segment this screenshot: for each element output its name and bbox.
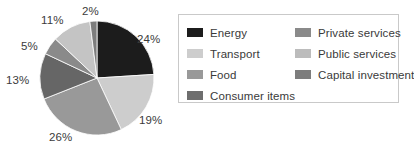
legend-item[interactable]: Private services <box>295 22 399 43</box>
legend-color-swatch <box>295 28 311 37</box>
legend-item-label: Private services <box>318 27 401 39</box>
pie-slice-value-label: 5% <box>21 40 38 52</box>
legend-item-label: Energy <box>210 27 247 39</box>
legend-column: EnergyTransportFoodConsumer items <box>187 22 295 106</box>
legend-item[interactable]: Food <box>187 64 295 85</box>
pie-slice-value-label: 26% <box>49 131 72 143</box>
legend-color-swatch <box>295 70 311 79</box>
legend-item[interactable]: Energy <box>187 22 295 43</box>
legend-item[interactable]: Capital investment <box>295 64 399 85</box>
legend-item[interactable]: Consumer items <box>187 85 295 106</box>
pie-slice[interactable] <box>97 21 154 78</box>
chart-legend: EnergyTransportFoodConsumer itemsPrivate… <box>178 14 399 103</box>
legend-item[interactable]: Transport <box>187 43 295 64</box>
legend-color-swatch <box>187 70 203 79</box>
legend-color-swatch <box>187 28 203 37</box>
legend-item-label: Capital investment <box>318 69 414 81</box>
pie-slice-value-label: 24% <box>137 33 160 45</box>
pie-slice-value-label: 19% <box>139 114 162 126</box>
pie-plot-area: 24%19%26%13%5%11%2% <box>0 0 178 160</box>
legend-item[interactable]: Public services <box>295 43 399 64</box>
legend-color-swatch <box>295 49 311 58</box>
pie-slice-value-label: 13% <box>6 74 29 86</box>
legend-item-label: Consumer items <box>210 90 295 102</box>
legend-color-swatch <box>187 91 203 100</box>
legend-column: Private servicesPublic servicesCapital i… <box>295 22 399 85</box>
legend-item-label: Transport <box>210 48 260 60</box>
legend-color-swatch <box>187 49 203 58</box>
legend-item-label: Public services <box>318 48 396 60</box>
pie-slice-value-label: 2% <box>82 5 99 17</box>
pie-slice-value-label: 11% <box>41 14 63 26</box>
legend-item-label: Food <box>210 69 237 81</box>
legend-columns: EnergyTransportFoodConsumer itemsPrivate… <box>179 15 398 102</box>
